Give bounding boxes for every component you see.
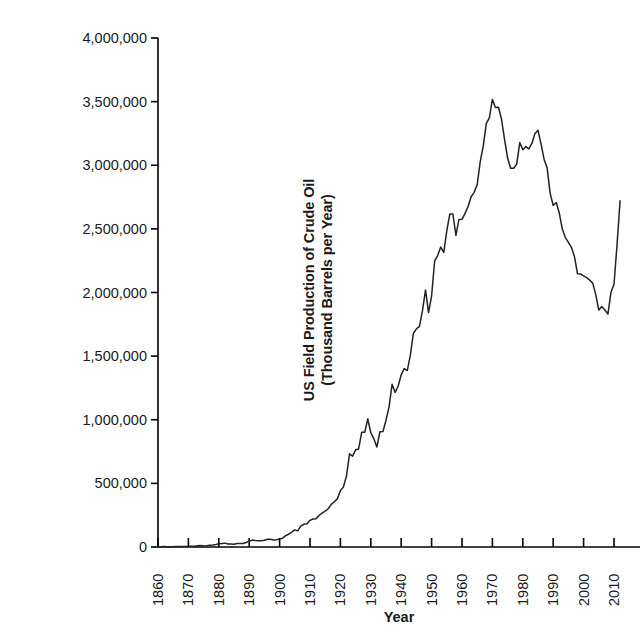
- x-axis-tick-label: 1960: [454, 562, 470, 606]
- y-axis-tick-label: 3,000,000: [82, 157, 147, 173]
- x-axis-ticks: [158, 538, 614, 547]
- x-axis-tick-label: 1980: [515, 562, 531, 606]
- x-axis-tick-label: 2000: [576, 562, 592, 606]
- y-axis-tick-label: 500,000: [95, 475, 147, 491]
- x-axis-tick-label: 1990: [545, 562, 561, 606]
- x-axis-tick-label: 1870: [180, 562, 196, 606]
- x-axis-tick-label: 1950: [424, 562, 440, 606]
- chart-figure: US Field Production of Crude Oil (Thousa…: [0, 0, 644, 638]
- y-axis-ticks: [151, 38, 158, 547]
- x-axis-tick-label: 1930: [363, 562, 379, 606]
- x-axis-tick-label: 2010: [606, 562, 622, 606]
- y-axis-tick-label: 3,500,000: [82, 94, 147, 110]
- x-axis-tick-label: 1880: [211, 562, 227, 606]
- y-axis-tick-label: 2,000,000: [82, 285, 147, 301]
- y-axis-tick-label: 2,500,000: [82, 221, 147, 237]
- y-axis-tick-label: 4,000,000: [82, 30, 147, 46]
- x-axis-title: Year: [158, 609, 640, 625]
- y-axis-tick-label: 0: [139, 539, 147, 555]
- y-axis-tick-label: 1,000,000: [82, 412, 147, 428]
- x-axis-tick-label: 1910: [302, 562, 318, 606]
- data-series-line: [158, 99, 620, 547]
- chart-axes: [151, 38, 640, 547]
- x-axis-tick-label: 1970: [484, 562, 500, 606]
- x-axis-tick-label: 1900: [272, 562, 288, 606]
- x-axis-tick-label: 1920: [332, 562, 348, 606]
- y-axis-tick-label: 1,500,000: [82, 348, 147, 364]
- x-axis-tick-label: 1860: [150, 562, 166, 606]
- x-axis-tick-label: 1890: [241, 562, 257, 606]
- x-axis-tick-label: 1940: [393, 562, 409, 606]
